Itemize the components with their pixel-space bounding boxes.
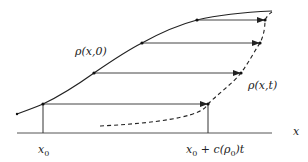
shifted-point-label: x0 + c(ρ0)t	[186, 144, 244, 158]
point-dot	[140, 41, 143, 44]
x0-label: x0	[38, 144, 49, 158]
point-dot	[41, 102, 44, 105]
point-dot	[16, 113, 18, 115]
evolved-curve-label: ρ(x,t)	[248, 80, 277, 91]
point-dot	[263, 18, 266, 21]
x-axis-label: x	[293, 126, 299, 137]
initial-curve-label: ρ(x,0)	[75, 46, 107, 57]
evolved-density-curve	[100, 12, 272, 126]
shifted-tail: )t	[236, 143, 245, 156]
point-dot	[206, 102, 209, 105]
point-dot	[92, 71, 95, 74]
x0-sub: 0	[44, 149, 49, 158]
point-dot	[239, 71, 242, 74]
point-dot	[195, 18, 198, 21]
initial-density-curve	[17, 11, 272, 114]
point-dot	[258, 41, 261, 44]
shifted-mid: + c(ρ	[197, 143, 230, 156]
